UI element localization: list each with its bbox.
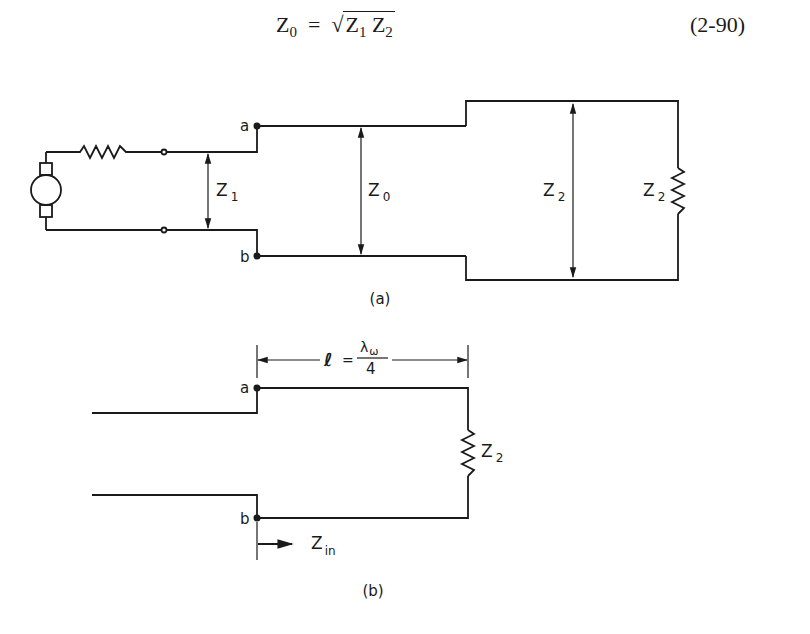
circuit-diagram: a b Z1 Z0 Z2 Z2 (a) a b ℓ = λω 4 Z2 Zin …: [0, 0, 810, 634]
label-z2-b: Z2: [481, 441, 503, 465]
caption-a: (a): [370, 290, 391, 308]
label-zin: Zin: [311, 533, 336, 558]
terminal-b-dot: [254, 253, 261, 260]
terminal-a-b-dot: [254, 385, 261, 392]
terminal-b-b-dot: [254, 515, 261, 522]
label-b: b: [240, 248, 250, 266]
load-resistor-b-icon: [462, 430, 474, 476]
length-denominator: 4: [366, 360, 376, 378]
label-b-b: b: [240, 510, 250, 528]
source-resistor-icon: [46, 146, 162, 158]
figure-b: [92, 345, 474, 560]
source-terminal-bottom: [162, 228, 167, 233]
length-numerator: λω: [360, 339, 379, 358]
figure-a: [31, 101, 684, 280]
load-resistor-icon: [672, 168, 684, 214]
length-symbol: ℓ: [323, 349, 333, 370]
label-z2-load: Z2: [643, 180, 665, 204]
terminal-a-dot: [254, 123, 261, 130]
label-z2-line: Z2: [543, 180, 565, 204]
caption-b: (b): [362, 582, 383, 600]
label-z0: Z0: [368, 180, 390, 204]
label-z1: Z1: [216, 180, 238, 204]
length-equals: =: [342, 352, 354, 368]
label-a: a: [240, 117, 249, 135]
generator-icon: [31, 152, 61, 230]
label-a-b: a: [240, 379, 249, 397]
source-terminal-top: [162, 150, 167, 155]
